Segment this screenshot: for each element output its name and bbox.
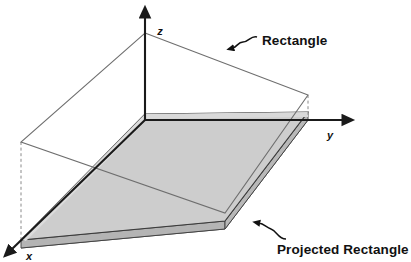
projected-rectangle-callout-squiggle-arrow	[259, 223, 286, 239]
x-axis-label: x	[25, 250, 33, 262]
z-axis-label: z	[156, 25, 163, 37]
projected-rectangle-slab	[21, 112, 308, 248]
projected-rectangle-callout-label: Projected Rectangle	[277, 242, 409, 257]
y-axis-label: y	[326, 129, 334, 141]
rectangle-callout-squiggle-arrow	[233, 37, 257, 48]
rectangle-callout: Rectangle	[233, 33, 328, 48]
projected-rectangle-callout: Projected Rectangle	[259, 223, 409, 257]
geometry-diagram-svg: z y x Rectangle Projected Rectangle	[0, 0, 411, 262]
diagram-canvas: z y x Rectangle Projected Rectangle	[0, 0, 411, 262]
rectangle-callout-label: Rectangle	[262, 33, 328, 48]
